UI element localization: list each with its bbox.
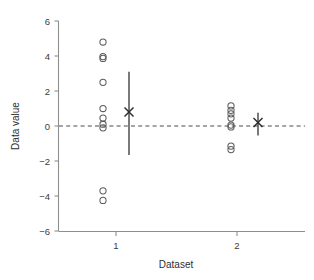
data-point xyxy=(100,188,106,194)
y-tick-label-neg2: −2 xyxy=(39,156,50,167)
series-dataset-1-points xyxy=(100,39,106,204)
summary-dataset-2 xyxy=(254,113,263,136)
y-tick-label-0: 0 xyxy=(45,121,50,132)
y-tick-label-2: 2 xyxy=(45,86,50,97)
data-point xyxy=(100,39,106,45)
chart-container: 6 4 2 0 −2 −4 −6 1 2 Dataset Data value xyxy=(0,0,314,280)
y-axis-title: Data value xyxy=(10,102,21,150)
data-point xyxy=(100,79,106,85)
series-dataset-2-points xyxy=(228,103,234,153)
data-point xyxy=(100,115,106,121)
scatter-plot: 6 4 2 0 −2 −4 −6 1 2 Dataset Data value xyxy=(0,0,314,280)
y-tick-label-neg4: −4 xyxy=(39,191,50,202)
x-tick-label-2: 2 xyxy=(234,240,239,251)
y-tick-label-6: 6 xyxy=(45,16,50,27)
x-axis-title: Dataset xyxy=(159,259,194,270)
summary-dataset-1 xyxy=(125,72,134,155)
x-tick-label-1: 1 xyxy=(113,240,118,251)
x-axis-ticks xyxy=(116,232,237,237)
y-tick-label-4: 4 xyxy=(45,51,50,62)
y-tick-label-neg6: −6 xyxy=(39,226,50,237)
data-point xyxy=(100,105,106,111)
y-axis-ticks xyxy=(55,21,59,231)
data-point xyxy=(100,197,106,203)
data-point xyxy=(228,115,234,121)
